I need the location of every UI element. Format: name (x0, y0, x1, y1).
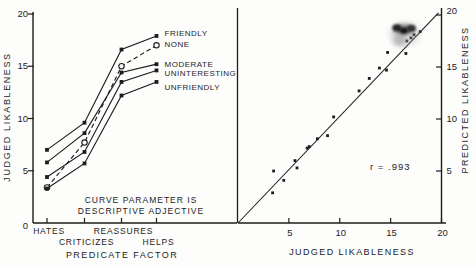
curve-line (47, 82, 157, 189)
left-x-tick-label: HELPS (143, 237, 175, 247)
left-y-axis-title: JUDGED LIKABLENESS (2, 52, 12, 181)
curve-line (47, 70, 157, 177)
right-y-tick-label: 5 (447, 165, 452, 176)
left-x-tick-label: HATES (33, 226, 65, 236)
left-annotation-line1: CURVE PARAMETER IS (85, 195, 198, 205)
curve-none (44, 43, 159, 191)
curve-moderate (45, 62, 158, 164)
square-marker (155, 34, 159, 38)
scatter-point (326, 134, 329, 137)
square-marker (155, 69, 159, 73)
scanned-figure: 05101520HATESCRITICIZESREASSURESHELPSPRE… (0, 0, 476, 266)
scatter-point (294, 159, 297, 162)
scatter-point (296, 166, 299, 169)
scatter-point (272, 170, 275, 173)
scatter-point (404, 52, 407, 55)
open-circle-marker (119, 64, 124, 69)
scatter-point (385, 69, 388, 72)
curve-uninteresting (45, 69, 158, 179)
square-marker (45, 175, 49, 179)
left-x-tick-label: CRITICIZES (59, 237, 114, 247)
square-marker (155, 62, 159, 66)
square-marker (120, 71, 124, 75)
square-marker (45, 160, 49, 164)
right-x-tick-label: 5 (287, 227, 292, 238)
left-y-tick-label: 10 (17, 113, 28, 124)
left-panel: 05101520HATESCRITICIZESREASSURESHELPSPRE… (2, 8, 237, 260)
right-x-tick-label: 15 (386, 227, 397, 238)
right-y-axis-title: PREDICTED LIKABLENESS (460, 26, 470, 173)
legend-label-unfriendly: UNFRIENDLY (165, 83, 221, 92)
left-x-axis-title: PREDICATE FACTOR (66, 250, 178, 260)
right-x-tick-label: 10 (335, 227, 346, 238)
right-y-tick-label: 10 (447, 113, 458, 124)
right-y-tick-label: 15 (447, 61, 458, 72)
left-x-tick-label: REASSURES (94, 226, 154, 236)
curve-friendly (45, 34, 158, 152)
square-marker (120, 80, 124, 84)
left-annotation-line2: DESCRIPTIVE ADJECTIVE (78, 206, 204, 216)
open-circle-marker (154, 43, 159, 48)
square-marker (45, 187, 49, 191)
legend-label-uninteresting: UNINTERESTING (165, 69, 237, 78)
scatter-point (378, 67, 381, 70)
left-y-tick-label: 5 (23, 165, 28, 176)
square-marker (120, 48, 124, 52)
right-y-tick-label: 20 (447, 5, 458, 16)
fit-line (238, 13, 438, 223)
left-y-tick-label: 20 (17, 8, 28, 19)
left-y-tick-label: 15 (17, 60, 28, 71)
legend-label-none: NONE (165, 40, 190, 49)
scatter-point (316, 137, 319, 140)
scatter-point (386, 51, 389, 54)
legend-label-friendly: FRIENDLY (165, 29, 208, 38)
right-x-tick-label: 20 (437, 227, 448, 238)
square-marker (120, 94, 124, 98)
square-marker (45, 148, 49, 152)
legend-label-moderate: MODERATE (165, 60, 214, 69)
scatter-point (308, 145, 311, 148)
scatter-point (282, 179, 285, 182)
square-marker (83, 150, 87, 154)
left-y-tick-label: 0 (23, 220, 28, 231)
scatter-point (332, 116, 335, 119)
square-marker (83, 131, 87, 135)
square-marker (83, 162, 87, 166)
right-x-axis-title: JUDGED LIKABLENESS (289, 247, 415, 257)
square-marker (155, 80, 159, 84)
right-panel: 51015205101520JUDGED LIKABLENESSPREDICTE… (238, 5, 471, 257)
scatter-point (368, 77, 371, 80)
curve-line (47, 64, 157, 162)
correlation-annotation: r = .993 (370, 161, 410, 172)
open-circle-marker (82, 140, 87, 145)
scatter-point (358, 90, 361, 93)
square-marker (83, 121, 87, 125)
curve-unfriendly (45, 80, 158, 190)
likableness-figure-svg: 05101520HATESCRITICIZESREASSURESHELPSPRE… (0, 0, 476, 266)
scatter-point (271, 191, 274, 194)
ink-smudge (390, 23, 420, 47)
